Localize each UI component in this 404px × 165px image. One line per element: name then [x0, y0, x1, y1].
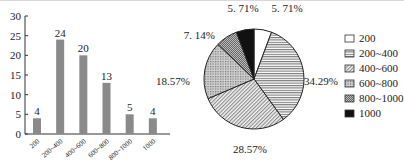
legend-item: 200	[345, 32, 376, 44]
legend-swatch	[345, 110, 354, 117]
bar-chart: 051015202530420024200~40020400~60013600~…	[10, 10, 170, 162]
legend-label: 600~800	[359, 77, 398, 89]
legend-swatch	[345, 65, 354, 72]
legend-label: 400~600	[359, 62, 398, 74]
chart-figure: 051015202530420024200~40020400~60013600~…	[0, 0, 404, 165]
pie-data-label: 7. 14%	[184, 29, 215, 41]
bar-data-label: 24	[55, 27, 67, 39]
pie-data-label: 5. 71%	[271, 2, 302, 14]
y-tick-label: 5	[16, 108, 22, 120]
y-tick-label: 0	[16, 128, 22, 140]
bar-data-label: 5	[127, 101, 133, 113]
bar	[103, 83, 111, 134]
bar	[149, 118, 157, 134]
legend-swatch	[345, 35, 354, 42]
bar-data-label: 20	[78, 42, 90, 54]
x-tick-label: 400~600	[63, 137, 88, 159]
pie-data-label: 34.29%	[304, 75, 338, 87]
legend-item: 600~800	[345, 77, 398, 89]
y-tick-label: 25	[10, 30, 22, 42]
pie-legend: 200200~400400~600600~800800~10001000	[345, 32, 404, 119]
legend-swatch	[345, 80, 354, 87]
x-tick-label: 1000	[141, 137, 157, 152]
legend-item: 800~1000	[345, 92, 404, 104]
pie-data-label: 5. 71%	[227, 2, 258, 14]
y-tick-label: 10	[10, 89, 22, 101]
legend-swatch	[345, 50, 354, 57]
pie-data-label: 28.57%	[233, 143, 267, 155]
bar	[33, 118, 41, 134]
x-tick-label: 800~1000	[107, 137, 134, 162]
x-tick-label: 200~400	[40, 137, 65, 159]
bar-data-label: 4	[34, 105, 40, 117]
pie-data-label: 18.57%	[156, 75, 190, 87]
y-tick-label: 30	[10, 10, 22, 22]
y-tick-label: 15	[10, 69, 22, 81]
bar	[79, 55, 87, 134]
chart-svg: 051015202530420024200~40020400~60013600~…	[0, 1, 404, 165]
legend-item: 1000	[345, 107, 382, 119]
bar	[56, 40, 64, 134]
x-tick-label: 200	[28, 137, 42, 150]
legend-label: 200~400	[359, 47, 398, 59]
legend-label: 1000	[359, 107, 382, 119]
legend-swatch	[345, 95, 354, 102]
y-tick-label: 20	[10, 49, 22, 61]
bar	[126, 114, 134, 134]
pie-chart: 5. 71%34.29%28.57%18.57%7. 14%5. 71%	[156, 2, 338, 155]
legend-item: 400~600	[345, 62, 398, 74]
bar-data-label: 13	[101, 70, 113, 82]
legend-label: 800~1000	[359, 92, 404, 104]
legend-item: 200~400	[345, 47, 398, 59]
legend-label: 200	[359, 32, 376, 44]
bar-data-label: 4	[150, 105, 156, 117]
